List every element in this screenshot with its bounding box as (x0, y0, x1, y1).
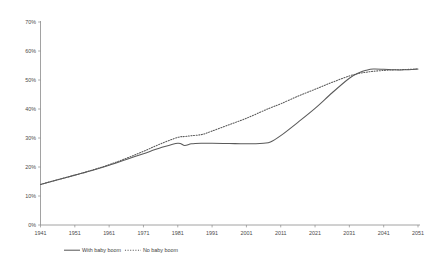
y-axis-tick-label: 20% (25, 164, 36, 170)
y-axis-tick-label: 70% (25, 19, 36, 25)
x-axis-tick-label: 1981 (172, 230, 184, 236)
x-axis-tick-label: 2031 (343, 230, 355, 236)
x-axis-tick-label: 2021 (309, 230, 321, 236)
y-axis-tick-label: 0% (28, 222, 36, 228)
x-axis-tick-label: 1961 (103, 230, 115, 236)
chart-legend: With baby boomNo baby boom (64, 247, 179, 253)
x-axis-tick-label: 1991 (206, 230, 218, 236)
x-axis-tick-label: 1971 (137, 230, 149, 236)
x-axis-tick-label: 2011 (275, 230, 287, 236)
y-axis: 0%10%20%30%40%50%60%70% (25, 19, 40, 228)
y-axis-tick-label: 50% (25, 77, 36, 83)
x-axis: 1941195119611971198119912001201120212031… (35, 225, 425, 236)
x-axis-tick-label: 1951 (69, 230, 81, 236)
x-axis-tick-label: 1941 (35, 230, 47, 236)
x-axis-tick-label: 2041 (378, 230, 390, 236)
data-series-group (41, 69, 419, 184)
y-axis-tick-label: 30% (25, 135, 36, 141)
legend-label-with-baby-boom: With baby boom (82, 247, 121, 253)
y-axis-tick-label: 40% (25, 106, 36, 112)
y-axis-tick-label: 10% (25, 193, 36, 199)
x-axis-tick-label: 2001 (240, 230, 252, 236)
y-axis-tick-label: 60% (25, 48, 36, 54)
chart-canvas: 0%10%20%30%40%50%60%70% 1941195119611971… (0, 0, 431, 265)
series-line-with-baby-boom (41, 69, 419, 184)
x-axis-tick-label: 2051 (412, 230, 424, 236)
series-line-no-baby-boom (41, 69, 419, 184)
legend-label-no-baby-boom: No baby boom (143, 247, 179, 253)
line-chart: 0%10%20%30%40%50%60%70% 1941195119611971… (0, 0, 431, 265)
